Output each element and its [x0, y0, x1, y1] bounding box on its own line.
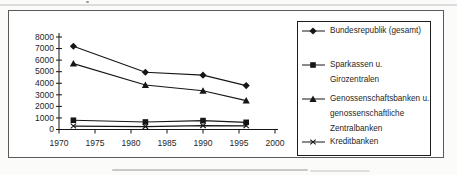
screenshot-root: { "figure": { "background": "#ffffff", "… — [0, 0, 457, 175]
y-tick-label: 5000 — [35, 66, 54, 76]
scan-artifact — [310, 170, 370, 172]
scan-artifact — [0, 4, 457, 6]
legend-entry: Kreditbanken — [302, 134, 378, 149]
y-tick-label: 0 — [49, 124, 54, 134]
legend-label: Kreditbanken — [330, 134, 378, 149]
diamond-marker-icon — [199, 72, 206, 79]
series-line — [73, 64, 246, 101]
legend-label: Genossenschaftsbanken u. genossenschaftl… — [330, 91, 429, 136]
legend-entry: Bundesrepublik (gesamt) — [302, 23, 421, 38]
diamond-marker-icon — [142, 69, 149, 76]
series-line — [73, 126, 246, 127]
x-tick-label: 1995 — [230, 138, 249, 148]
x-tick-label: 1975 — [86, 138, 105, 148]
x-tick-label: 1985 — [158, 138, 177, 148]
y-tick-label: 8000 — [35, 32, 54, 42]
triangle-marker-icon — [70, 60, 77, 67]
diamond-legend-marker-icon — [302, 26, 326, 36]
x-tick-label: 1990 — [194, 138, 213, 148]
scan-artifact — [112, 169, 308, 171]
square-marker-icon — [71, 117, 77, 123]
line-chart: 0100020003000400050006000700080001970197… — [9, 11, 301, 157]
x-tick-label: 2000 — [266, 138, 285, 148]
series-line — [73, 46, 246, 85]
series-line — [73, 120, 246, 122]
square-marker-icon — [200, 118, 206, 124]
legend-label: Bundesrepublik (gesamt) — [330, 23, 421, 38]
x-tick-label: 1980 — [122, 138, 141, 148]
y-tick-label: 3000 — [35, 90, 54, 100]
diamond-marker-icon — [309, 27, 316, 34]
scan-artifact — [86, 1, 89, 3]
y-tick-label: 6000 — [35, 55, 54, 65]
legend-box: Bundesrepublik (gesamt)Sparkassen u. Gir… — [297, 21, 431, 156]
y-tick-label: 1000 — [35, 113, 54, 123]
diamond-marker-icon — [243, 82, 250, 89]
square-marker-icon — [143, 119, 149, 125]
diamond-marker-icon — [70, 43, 77, 50]
square-legend-marker-icon — [302, 60, 326, 70]
legend-entry: Sparkassen u. Girozentralen — [302, 57, 430, 87]
legend-entry: Genossenschaftsbanken u. genossenschaftl… — [302, 91, 429, 136]
legend-label: Sparkassen u. Girozentralen — [330, 57, 430, 87]
chart-frame: 0100020003000400050006000700080001970197… — [8, 10, 444, 158]
x-tick-label: 1970 — [50, 138, 69, 148]
triangle-legend-marker-icon — [302, 94, 326, 104]
square-marker-icon — [310, 62, 316, 68]
y-tick-label: 7000 — [35, 43, 54, 53]
y-tick-label: 4000 — [35, 78, 54, 88]
x-cross-legend-marker-icon — [302, 137, 326, 147]
y-tick-label: 2000 — [35, 101, 54, 111]
